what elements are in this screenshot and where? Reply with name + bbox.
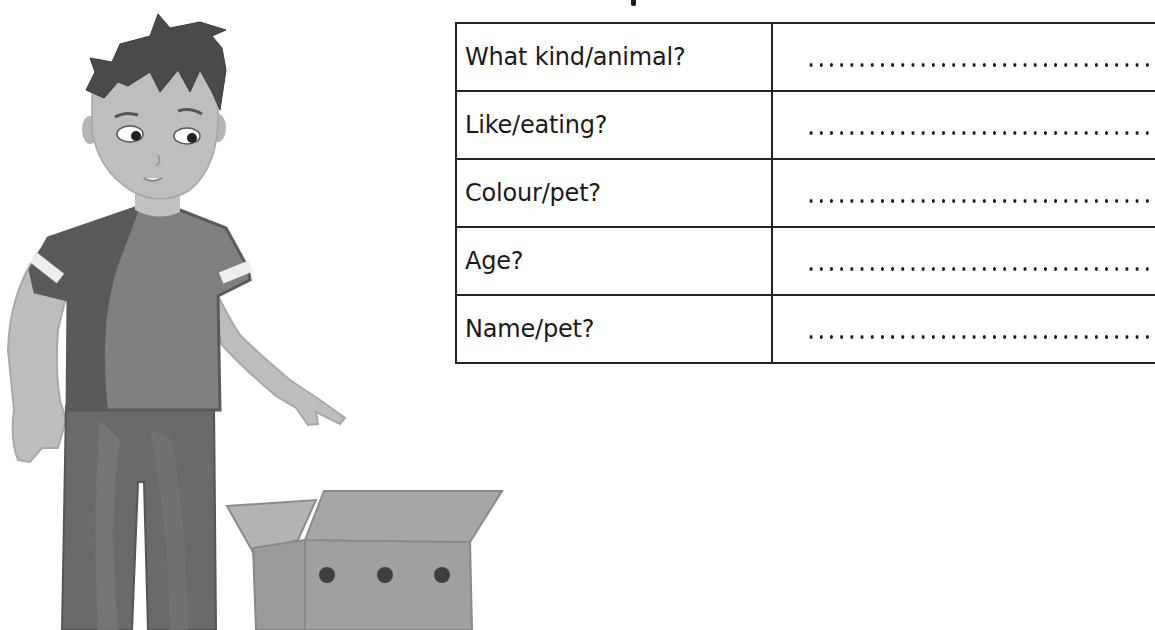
question-label: Like/eating? xyxy=(465,111,607,139)
heading-fragment xyxy=(631,0,636,6)
box-top-flap xyxy=(305,491,502,542)
boy-and-box-illustration xyxy=(0,0,520,630)
answer-dotted-line[interactable] xyxy=(806,131,1155,135)
question-cell: Name/pet? xyxy=(456,295,772,363)
answer-dotted-line[interactable] xyxy=(806,335,1155,339)
answer-cell[interactable] xyxy=(772,23,1155,91)
question-cell: What kind/animal? xyxy=(456,23,772,91)
answer-cell[interactable] xyxy=(772,295,1155,363)
question-cell: Age? xyxy=(456,227,772,295)
pet-questions-table: What kind/animal? Like/eating? Colour/pe… xyxy=(455,22,1155,364)
question-label: What kind/animal? xyxy=(465,43,685,71)
box-side-panel xyxy=(253,540,305,630)
box-front-panel xyxy=(305,540,472,630)
answer-dotted-line[interactable] xyxy=(806,199,1155,203)
open-box xyxy=(227,491,502,630)
question-label: Age? xyxy=(465,247,523,275)
box-air-hole xyxy=(434,567,450,583)
table-row: What kind/animal? xyxy=(456,23,1155,91)
box-air-hole xyxy=(377,567,393,583)
box-air-hole xyxy=(319,567,335,583)
right-arm xyxy=(210,290,345,425)
table-row: Like/eating? xyxy=(456,91,1155,159)
table-row: Age? xyxy=(456,227,1155,295)
answer-dotted-line[interactable] xyxy=(806,63,1155,67)
answer-cell[interactable] xyxy=(772,159,1155,227)
table-row: Colour/pet? xyxy=(456,159,1155,227)
answer-cell[interactable] xyxy=(772,91,1155,159)
question-cell: Colour/pet? xyxy=(456,159,772,227)
table-row: Name/pet? xyxy=(456,295,1155,363)
head xyxy=(82,14,226,199)
answer-cell[interactable] xyxy=(772,227,1155,295)
answer-dotted-line[interactable] xyxy=(806,267,1155,271)
question-cell: Like/eating? xyxy=(456,91,772,159)
question-label: Name/pet? xyxy=(465,315,594,343)
question-label: Colour/pet? xyxy=(465,179,601,207)
pants xyxy=(62,404,216,630)
